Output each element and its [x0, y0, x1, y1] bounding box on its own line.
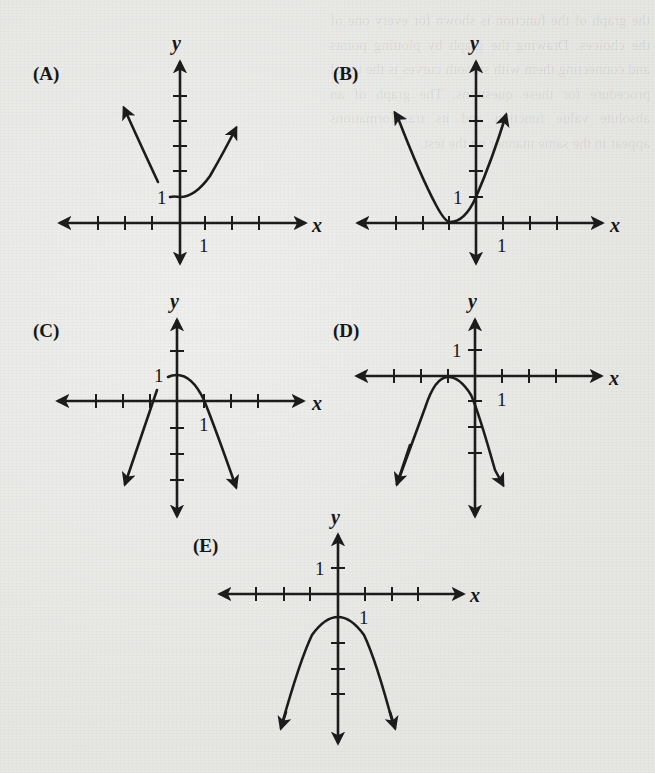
y-axis-label: y	[170, 32, 181, 55]
y-axis-label: y	[466, 290, 477, 313]
curve	[398, 115, 506, 222]
graph-panel-b: (B) y x 1 1	[333, 32, 620, 263]
curve-left-branch	[124, 108, 158, 182]
y-tick-label: 1	[453, 187, 463, 208]
curve-left-branch	[125, 390, 157, 484]
x-tick-label: 1	[497, 389, 507, 410]
y-tick-label: 1	[452, 340, 462, 361]
graph-panel-a: (A) y x 1 1	[33, 32, 322, 263]
curve-left-arrow	[395, 113, 398, 118]
panel-label: (D)	[333, 320, 359, 342]
y-tick-label: 1	[154, 365, 164, 386]
panel-label: (A)	[33, 63, 59, 85]
graph-panel-c: (C) y x 1 1	[33, 290, 322, 516]
panel-label: (B)	[333, 63, 358, 85]
x-axis-label: x	[311, 392, 322, 414]
x-tick-label: 1	[497, 235, 507, 256]
answer-choice-graphs: (A) y x 1 1 (B)	[0, 0, 655, 773]
curve	[397, 377, 503, 485]
y-tick-label: 1	[157, 187, 167, 208]
panel-label: (E)	[193, 535, 218, 557]
x-tick-label: 1	[359, 607, 369, 628]
y-tick-label: 1	[315, 558, 325, 579]
x-axis-label: x	[608, 367, 619, 389]
y-axis-label: y	[468, 32, 479, 55]
x-tick-label: 1	[199, 235, 209, 256]
curve-left-arrow	[397, 445, 410, 484]
y-axis-label: y	[329, 506, 340, 529]
graph-panel-e: (E) y x 1 1	[193, 506, 480, 743]
x-axis-label: x	[609, 214, 620, 236]
x-tick-label: 1	[199, 414, 209, 435]
y-axis-label: y	[168, 290, 179, 313]
panel-label: (C)	[33, 320, 59, 342]
x-axis-label: x	[469, 584, 480, 606]
graph-panel-d: (D) y x 1 1	[333, 290, 619, 516]
x-axis-label: x	[311, 214, 322, 236]
